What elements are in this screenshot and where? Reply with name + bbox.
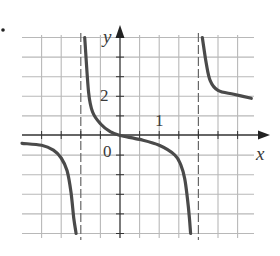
- grid-lines: [22, 35, 254, 238]
- x-axis-label: x: [255, 143, 265, 164]
- curve-left-branch: [22, 143, 76, 233]
- y-tick-label-2: 2: [100, 86, 109, 105]
- origin-label: 0: [103, 142, 112, 161]
- x-tick-label-1: 1: [155, 111, 164, 130]
- problem-marker-dot: [1, 28, 5, 32]
- x-axis-arrow-icon: [258, 131, 270, 140]
- graph: y x 2 1 0: [0, 0, 280, 256]
- y-axis-arrow-icon: [116, 25, 125, 38]
- y-axis-label: y: [101, 26, 112, 47]
- curve-right-branch: [202, 38, 251, 99]
